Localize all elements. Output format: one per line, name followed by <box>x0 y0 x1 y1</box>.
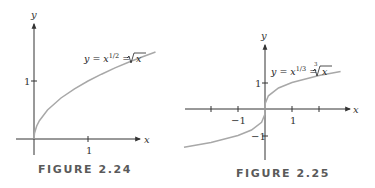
fig1-y-label: y <box>30 9 37 20</box>
fig2-y-label: y <box>260 30 267 41</box>
fig1-y-tick-label: 1 <box>24 76 30 87</box>
fig1-x-label: x <box>144 134 150 145</box>
fig2-y-tick-label-1: 1 <box>255 78 261 89</box>
svg-text:y = x1/3 =: y = x1/3 = <box>270 65 317 77</box>
svg-text:x: x <box>136 53 142 64</box>
fig1-annotation: y = x1/2 = x <box>83 52 146 64</box>
fig1-x-tick-label: 1 <box>86 145 92 156</box>
fig1-curve-sqrt <box>34 52 156 139</box>
svg-text:y = x1/2 =: y = x1/2 = <box>83 52 130 64</box>
figure-2-24-caption: FIGURE 2.24 <box>38 163 132 176</box>
figures-canvas: x y 1 1 y = x1/2 = x x y −1 1 1 −1 y = x… <box>0 0 375 188</box>
figure-2-25-caption: FIGURE 2.25 <box>236 167 330 180</box>
svg-text:x: x <box>322 66 328 77</box>
fig2-x-label: x <box>353 104 359 115</box>
fig2-x-tick-label-1: 1 <box>290 115 296 126</box>
fig2-annotation: y = x1/3 = 3 x <box>270 61 332 77</box>
fig2-y-tick-label-neg1: −1 <box>251 131 266 142</box>
svg-text:3: 3 <box>314 61 318 67</box>
figure-2-24-chart: x y 1 1 y = x1/2 = x <box>16 9 156 156</box>
figure-2-25-chart: x y −1 1 1 −1 y = x1/3 = 3 x <box>184 30 359 160</box>
fig2-x-tick-label-neg1: −1 <box>231 115 246 126</box>
